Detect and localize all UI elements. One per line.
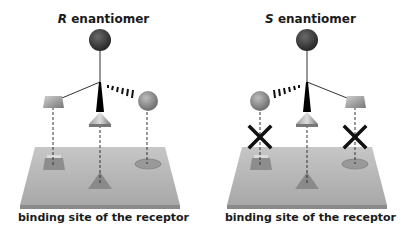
wedge-bond (96, 82, 104, 112)
hashed-bond (108, 85, 133, 98)
s-enantiomer-panel: S enantiomer (207, 0, 414, 241)
top-sphere (296, 29, 318, 51)
r-enantiomer-panel: R enantiomer (0, 0, 207, 241)
receptor-site-box (250, 158, 272, 170)
receptor-caption: binding site of the receptor (207, 211, 414, 224)
side-sphere (138, 91, 158, 111)
receptor-caption: binding site of the receptor (0, 211, 207, 224)
box-group (43, 96, 64, 108)
top-sphere (89, 29, 111, 51)
triangle-group (89, 112, 111, 124)
receptor-site-box (43, 158, 65, 170)
side-sphere (250, 91, 270, 111)
receptor-site-circle (135, 159, 161, 169)
r-enantiomer-diagram (0, 0, 207, 241)
wedge-bond (303, 82, 311, 112)
hashed-bond (274, 85, 299, 98)
s-enantiomer-diagram (207, 0, 414, 241)
bond-right (307, 82, 347, 98)
box-group (345, 96, 366, 108)
bond-left (62, 82, 100, 98)
triangle-group (296, 112, 318, 124)
